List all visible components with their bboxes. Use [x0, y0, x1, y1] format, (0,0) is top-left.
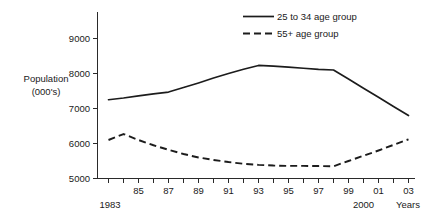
- x-tick-marks: [109, 179, 409, 184]
- x-tick-label-89: 89: [193, 185, 204, 196]
- x-tick-label-99: 99: [343, 185, 354, 196]
- x-annotation-2000: 2000: [353, 199, 374, 210]
- y-tick-label-6000: 6000: [69, 138, 90, 149]
- legend-label-55-plus: 55+ age group: [277, 28, 339, 39]
- legend-label-25-to-34: 25 to 34 age group: [277, 11, 357, 22]
- chart-container: Population (000's) 9000 8000 7000 6000 5…: [0, 0, 422, 219]
- x-tick-label-91: 91: [223, 185, 234, 196]
- y-tick-marks: [93, 39, 98, 179]
- x-tick-label-03: 03: [403, 185, 414, 196]
- y-axis-label-line2: (000's): [32, 86, 61, 97]
- line-chart: Population (000's) 9000 8000 7000 6000 5…: [0, 0, 422, 219]
- y-tick-label-7000: 7000: [69, 103, 90, 114]
- x-tick-label-95: 95: [283, 185, 294, 196]
- x-tick-label-85: 85: [133, 185, 144, 196]
- y-tick-label-5000: 5000: [69, 173, 90, 184]
- y-tick-label-9000: 9000: [69, 33, 90, 44]
- y-tick-label-8000: 8000: [69, 68, 90, 79]
- x-tick-label-87: 87: [163, 185, 174, 196]
- x-tick-label-97: 97: [313, 185, 324, 196]
- x-axis-title: Years: [396, 199, 420, 210]
- x-tick-label-93: 93: [253, 185, 264, 196]
- y-axis-label-line1: Population: [24, 73, 69, 84]
- chart-legend: 25 to 34 age group 55+ age group: [243, 11, 357, 39]
- series-line-55-plus: [109, 134, 409, 166]
- x-tick-label-1983: 1983: [99, 199, 120, 210]
- x-tick-label-01: 01: [373, 185, 384, 196]
- series-line-25-to-34: [109, 65, 409, 115]
